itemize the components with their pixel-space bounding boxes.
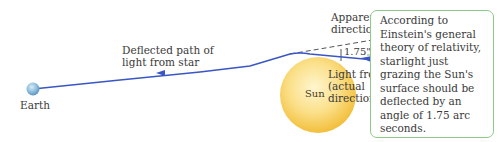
light-deflection-diagram: Earth Deflected path of light from star … (0, 0, 500, 142)
earth-label: Earth (20, 99, 50, 111)
earth-sphere (27, 83, 40, 96)
sun-label: Sun (305, 88, 325, 99)
arrowhead-left (156, 70, 165, 76)
callout-text: According to Einstein's general theory o… (380, 14, 493, 136)
angle-label: 1.75" (344, 46, 371, 57)
einstein-callout-box: According to Einstein's general theory o… (370, 10, 494, 138)
deflected-path-label: Deflected path of light from star (122, 44, 214, 68)
